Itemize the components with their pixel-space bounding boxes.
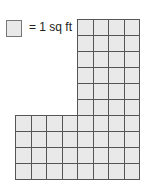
unit-square [108, 83, 125, 100]
unit-square [108, 115, 125, 132]
unit-square [31, 115, 48, 132]
unit-square [93, 51, 110, 68]
unit-square [46, 115, 63, 132]
unit-square [62, 115, 79, 132]
unit-square [77, 67, 94, 84]
legend-unit-square [6, 20, 22, 37]
unit-square [15, 115, 32, 132]
unit-square [77, 131, 94, 148]
unit-square [108, 67, 125, 84]
unit-square [124, 147, 141, 164]
unit-square [108, 131, 125, 148]
unit-square [77, 51, 94, 68]
unit-square [93, 99, 110, 116]
unit-square [124, 115, 141, 132]
unit-square [93, 115, 110, 132]
unit-square [46, 147, 63, 164]
unit-square [31, 147, 48, 164]
legend-label: = 1 sq ft [29, 19, 72, 35]
unit-square [93, 131, 110, 148]
unit-square [124, 67, 141, 84]
unit-square [108, 147, 125, 164]
unit-square [62, 163, 79, 180]
unit-square [124, 83, 141, 100]
unit-square [77, 83, 94, 100]
unit-square [77, 19, 94, 36]
unit-square [108, 99, 125, 116]
unit-square [46, 163, 63, 180]
unit-square [77, 115, 94, 132]
unit-square [46, 131, 63, 148]
unit-square [124, 51, 141, 68]
unit-square [15, 131, 32, 148]
unit-square [93, 67, 110, 84]
unit-square [108, 35, 125, 52]
unit-square [108, 163, 125, 180]
unit-square [31, 163, 48, 180]
unit-square [93, 35, 110, 52]
unit-square [124, 163, 141, 180]
unit-square [77, 99, 94, 116]
unit-square [15, 147, 32, 164]
unit-square [124, 19, 141, 36]
unit-square [62, 131, 79, 148]
unit-square [108, 19, 125, 36]
unit-square [77, 35, 94, 52]
unit-square [93, 163, 110, 180]
unit-square [77, 163, 94, 180]
unit-square [15, 163, 32, 180]
unit-square [93, 19, 110, 36]
unit-square [62, 147, 79, 164]
unit-square [108, 51, 125, 68]
unit-square [93, 147, 110, 164]
unit-square [124, 35, 141, 52]
unit-square [124, 131, 141, 148]
unit-square [124, 99, 141, 116]
unit-square [77, 147, 94, 164]
unit-square [93, 83, 110, 100]
unit-square [31, 131, 48, 148]
